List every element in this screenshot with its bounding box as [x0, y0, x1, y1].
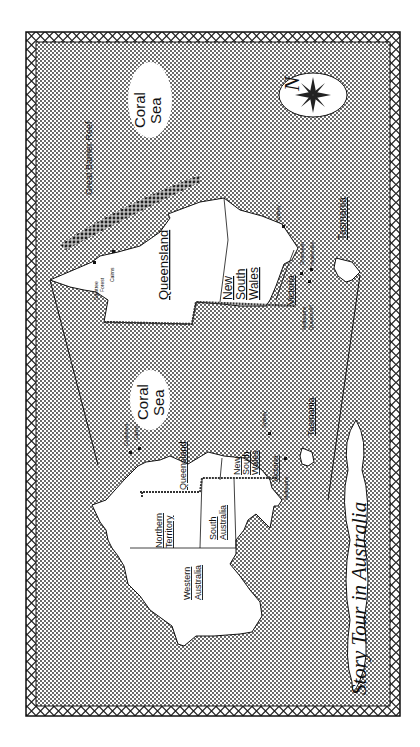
inset-city-forest: Forest: [99, 277, 105, 292]
svg-text:Wales: Wales: [250, 450, 260, 475]
city-melbourne: Melbourne: [283, 476, 289, 500]
inset-city-dromkeen: Dromkeen: [299, 242, 305, 265]
story-tour-map: Queensland New South Wales Victoria Tasm…: [0, 0, 420, 747]
svg-text:Sea: Sea: [147, 97, 164, 124]
label-western-australia: Western Australia: [182, 565, 203, 600]
inset-label-great-barrier-reef: Great Barrier Reef: [84, 121, 94, 195]
svg-text:South: South: [208, 516, 218, 540]
map-title: Story Tour in Australia: [347, 502, 371, 695]
label-victoria: Victoria: [271, 455, 280, 482]
svg-text:Australia: Australia: [218, 505, 228, 540]
inset-city-healesville: Healesville: [309, 242, 315, 266]
inset-label-victoria: Victoria: [286, 275, 296, 305]
svg-text:Coral: Coral: [134, 384, 151, 420]
inset-city-cairns: Cairns: [109, 267, 115, 282]
city-cooktown: Cooktown: [123, 424, 129, 446]
city-sydney: Sydney: [261, 411, 267, 428]
inset-city-sydney: Sydney: [275, 205, 281, 222]
svg-text:New: New: [221, 276, 235, 300]
svg-text:Sea: Sea: [150, 389, 167, 416]
svg-text:Australia: Australia: [193, 565, 203, 600]
compass-rose-icon: N: [279, 73, 347, 117]
label-queensland: Queensland: [178, 441, 188, 490]
svg-text:Coral: Coral: [131, 92, 148, 128]
label-coral-sea: Coral Sea: [134, 384, 167, 420]
inset-label-coral-sea: Coral Sea: [131, 92, 164, 128]
svg-text:Northern: Northern: [154, 513, 164, 548]
svg-text:Wales: Wales: [247, 267, 261, 300]
city-cairns: Cairns: [133, 425, 139, 440]
label-northern-territory: Northern Territory: [154, 513, 174, 548]
inset-label-queensland: Queensland: [156, 230, 171, 300]
compass-north-label: N: [279, 75, 304, 92]
inset-label-tasmania: Tasmania: [337, 197, 348, 240]
svg-text:South: South: [234, 269, 248, 300]
label-tasmania: Tasmania: [306, 397, 316, 436]
svg-text:Western: Western: [182, 567, 192, 600]
inset-city-queenscliff: Queenscliff: [308, 304, 314, 330]
inset-city-melbourne: Melbourne: [301, 306, 307, 330]
svg-text:Territory: Territory: [164, 515, 174, 548]
